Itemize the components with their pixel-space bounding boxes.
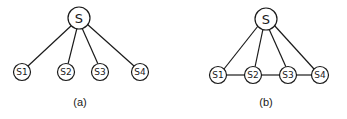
svg-text:S1: S1 — [16, 67, 27, 77]
node-root-b: S — [255, 8, 277, 30]
caption-b: (b) — [259, 96, 272, 108]
node-s2-b: S2 — [245, 67, 262, 84]
edge-s-s3-a — [82, 28, 98, 64]
svg-text:S3: S3 — [282, 70, 293, 80]
edge-s-s2-b — [255, 29, 263, 67]
svg-text:S: S — [75, 11, 83, 26]
svg-text:S2: S2 — [60, 67, 71, 77]
svg-text:S: S — [262, 12, 270, 27]
diagram-b: S S1 S2 S3 S4 (b) — [210, 8, 329, 108]
edge-s-s1-b — [224, 26, 258, 69]
node-s1-b: S1 — [210, 67, 227, 84]
edge-s-s2-a — [68, 28, 77, 64]
svg-text:S3: S3 — [94, 67, 105, 77]
svg-text:S2: S2 — [247, 70, 258, 80]
node-s2-a: S2 — [58, 64, 75, 81]
caption-a: (a) — [73, 96, 86, 108]
svg-text:S4: S4 — [134, 67, 146, 77]
node-s3-a: S3 — [92, 64, 109, 81]
node-s1-a: S1 — [14, 64, 31, 81]
node-s4-a: S4 — [132, 64, 149, 81]
svg-text:S4: S4 — [314, 70, 326, 80]
node-s4-b: S4 — [312, 67, 329, 84]
svg-text:S1: S1 — [212, 70, 223, 80]
edge-s-s1-a — [28, 25, 72, 66]
node-root-a: S — [68, 7, 90, 29]
edge-s-s4-b — [274, 25, 314, 69]
diagram-a: S S1 S2 S3 S4 (a) — [14, 7, 149, 108]
node-s3-b: S3 — [280, 67, 297, 84]
diagram-canvas: S S1 S2 S3 S4 (a) S — [0, 0, 347, 119]
edge-s-s4-a — [87, 24, 134, 66]
